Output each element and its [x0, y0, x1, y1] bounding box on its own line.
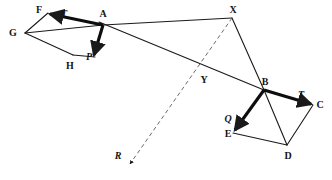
label-R: R — [115, 151, 122, 161]
label-C: C — [316, 100, 323, 110]
label-D: D — [284, 151, 291, 161]
label-A: A — [99, 9, 106, 19]
label-Y: Y — [200, 75, 207, 85]
label-H: H — [66, 61, 74, 71]
label-P-left: P — [86, 52, 92, 62]
label-F: F — [36, 5, 42, 15]
label-X: X — [229, 5, 236, 15]
vector-diagram-figure: F T A G H P X Y B T C Q E D R — [0, 0, 332, 180]
label-T-left: T — [61, 9, 67, 19]
label-E: E — [225, 129, 232, 139]
label-Q: Q — [224, 114, 231, 124]
label-G: G — [9, 28, 17, 38]
label-T-right: T — [298, 90, 304, 100]
point-labels-layer: F T A G H P X Y B T C Q E D R — [0, 0, 332, 180]
label-B: B — [262, 77, 269, 87]
